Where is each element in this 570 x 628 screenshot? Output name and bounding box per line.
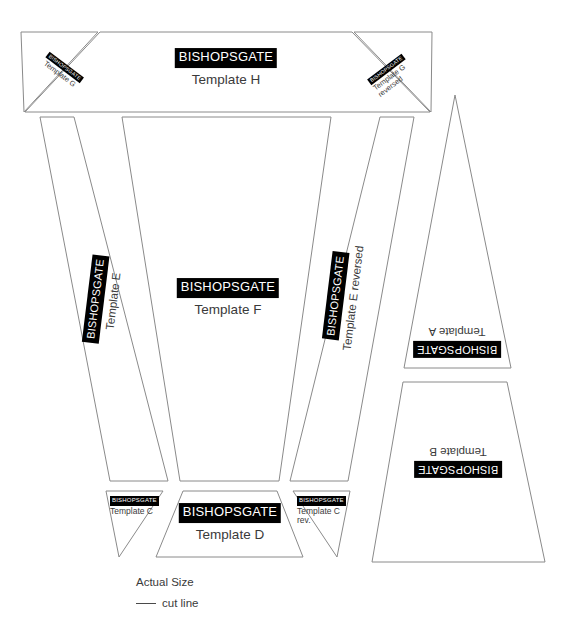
brand-badge: BISHOPSGATE	[414, 461, 502, 478]
legend-cut-line-label: cut line	[162, 597, 198, 609]
brand-badge: BISHOPSGATE	[413, 341, 501, 358]
legend-cut-line-row: cut line	[136, 597, 198, 609]
legend: Actual Size cut line	[136, 576, 198, 609]
label-template-d: BISHOPSGATE Template D	[179, 503, 281, 543]
template-name: Template B	[429, 444, 487, 459]
cut-line-sample-icon	[136, 603, 156, 604]
label-template-a: BISHOPSGATE Template A	[413, 324, 501, 358]
brand-badge: BISHOPSGATE	[297, 496, 346, 506]
label-template-c: BISHOPSGATE Template C	[110, 496, 158, 516]
template-name: Template F	[195, 301, 262, 318]
template-name: Template C rev.	[297, 507, 345, 526]
label-template-h: BISHOPSGATE Template H	[175, 48, 277, 88]
label-template-f: BISHOPSGATE Template F	[177, 278, 279, 318]
template-name: Template D	[196, 526, 264, 543]
template-cutting-sheet: BISHOPSGATE Template H BISHOPSGATE Templ…	[0, 0, 570, 628]
template-name: Template C	[110, 507, 153, 516]
brand-badge: BISHOPSGATE	[110, 496, 159, 506]
label-template-b: BISHOPSGATE Template B	[414, 444, 502, 478]
template-name: Template H	[192, 71, 260, 88]
label-template-c-reversed: BISHOPSGATE Template C rev.	[297, 496, 345, 525]
template-name: Template A	[429, 324, 486, 339]
brand-badge: BISHOPSGATE	[175, 48, 277, 68]
legend-actual-size: Actual Size	[136, 576, 198, 588]
brand-badge: BISHOPSGATE	[177, 278, 279, 298]
brand-badge: BISHOPSGATE	[179, 503, 281, 523]
